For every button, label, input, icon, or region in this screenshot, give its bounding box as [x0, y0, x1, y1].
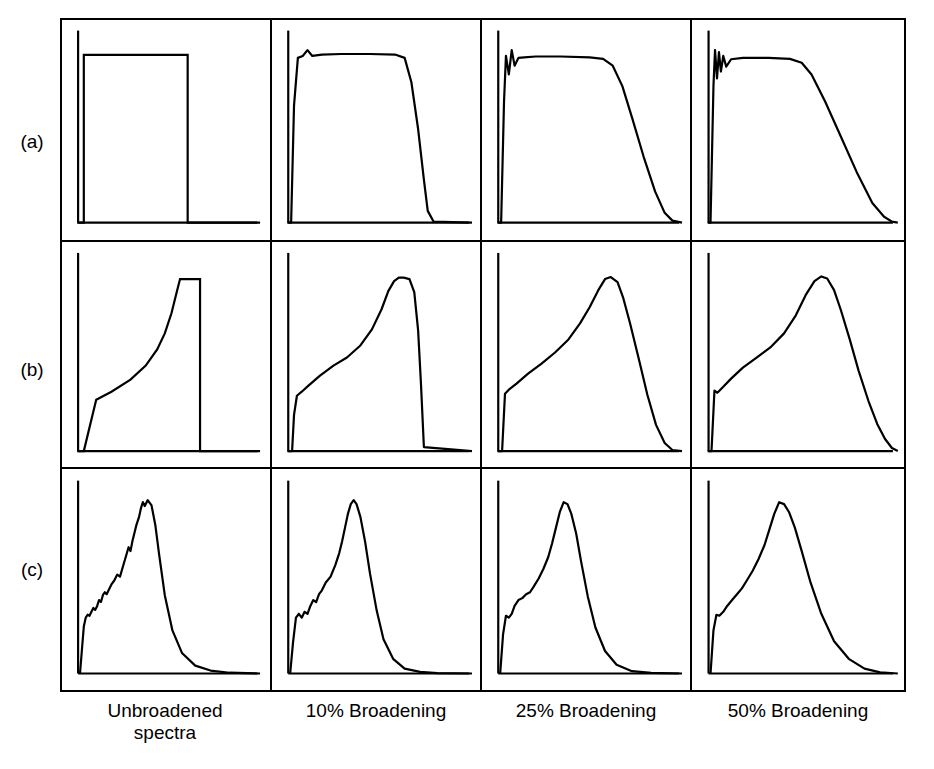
spectrum-curve — [287, 278, 472, 451]
plot-panel-b-10 — [272, 242, 480, 468]
plot-panel-a-50 — [692, 20, 904, 239]
plot-panel-a-unbroadened — [62, 20, 268, 239]
column-caption-25: 25% Broadening — [482, 700, 690, 722]
row-label-b: (b) — [8, 360, 56, 379]
spectrum-curve — [711, 502, 898, 673]
spectrum-curve — [287, 50, 472, 222]
column-caption-line1: 50% Broadening — [692, 700, 904, 722]
column-caption-unbroadened: Unbroadened spectra — [62, 700, 268, 744]
plot-panel-a-10 — [272, 20, 480, 239]
spectrum-curve — [497, 50, 682, 222]
spectrum-curve — [708, 276, 898, 451]
spectrum-curve — [80, 500, 260, 673]
plot-panel-c-50 — [692, 470, 904, 690]
spectrum-curve — [497, 277, 682, 451]
plot-panel-a-25 — [482, 20, 690, 239]
column-caption-line1: Unbroadened — [62, 700, 268, 722]
plot-panel-b-50 — [692, 242, 904, 468]
spectra-figure: (a) (b) (c) Unbroadened spectra 10% Broa… — [0, 0, 934, 769]
column-caption-10: 10% Broadening — [272, 700, 480, 722]
spectrum-curve — [708, 50, 898, 222]
spectrum-curve — [290, 500, 472, 673]
spectrum-curve — [77, 279, 260, 451]
plot-panel-c-25 — [482, 470, 690, 690]
column-caption-line2: spectra — [62, 722, 268, 744]
plot-panel-b-25 — [482, 242, 690, 468]
column-caption-line1: 25% Broadening — [482, 700, 690, 722]
spectrum-curve — [500, 502, 682, 673]
column-caption-line1: 10% Broadening — [272, 700, 480, 722]
spectrum-curve — [77, 55, 260, 223]
row-label-c: (c) — [8, 560, 56, 579]
row-label-a: (a) — [8, 132, 56, 151]
plot-panel-c-10 — [272, 470, 480, 690]
column-caption-50: 50% Broadening — [692, 700, 904, 722]
plot-panel-c-unbroadened — [62, 470, 268, 690]
plot-panel-b-unbroadened — [62, 242, 268, 468]
